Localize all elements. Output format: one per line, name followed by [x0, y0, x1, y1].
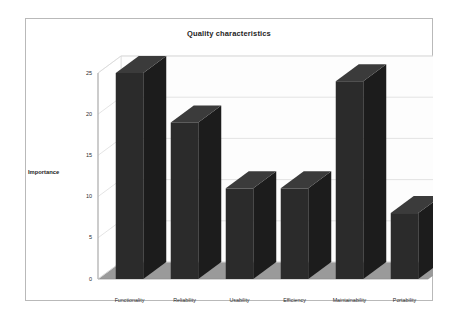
y-tick-label: 20 [74, 111, 92, 117]
bar-side-face [308, 171, 331, 279]
bar-efficiency [281, 171, 332, 279]
y-tick-label: 25 [74, 70, 92, 76]
y-tick-label: 10 [74, 193, 92, 199]
bar-side-face [143, 56, 166, 279]
y-tick-label: 0 [74, 276, 92, 282]
chart-canvas [73, 37, 433, 287]
bar-side-face [363, 64, 386, 279]
y-axis-title: Importance [28, 169, 59, 175]
plot-area [73, 37, 433, 287]
bar-front-face [391, 213, 419, 279]
bar-front-face [171, 122, 199, 279]
y-tick-label: 5 [74, 234, 92, 240]
bar-front-face [116, 73, 144, 279]
bar-front-face [281, 188, 309, 279]
x-category-label: Portability [365, 297, 445, 303]
bar-front-face [226, 188, 254, 279]
bar-reliability [171, 105, 222, 279]
bar-front-face [336, 81, 364, 279]
chart-frame: Quality characteristics 0510152025 Funct… [25, 18, 433, 301]
bar-portability [391, 196, 433, 279]
bar-maintainability [336, 64, 387, 279]
bar-usability [226, 171, 277, 279]
bar-side-face [198, 105, 221, 279]
bar-functionality [116, 56, 167, 279]
bar-side-face [253, 171, 276, 279]
y-tick-label: 15 [74, 152, 92, 158]
